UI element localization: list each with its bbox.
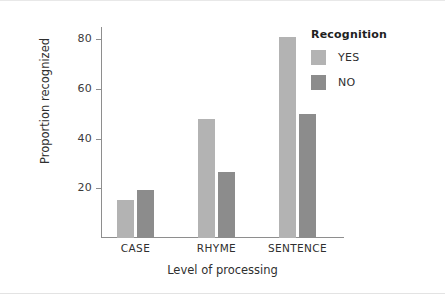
legend-swatch-icon — [311, 75, 326, 90]
y-tick-label-wrap: 20 — [48, 181, 92, 195]
legend-label: NO — [338, 76, 356, 89]
bar-case-yes — [117, 200, 134, 238]
legend-item-no[interactable]: NO — [311, 75, 431, 90]
y-tick-label: 80 — [48, 32, 92, 45]
bar-sentence-yes — [279, 37, 296, 238]
legend-title: Recognition — [311, 28, 431, 41]
bar-rhyme-no — [218, 172, 235, 238]
y-tick-label-wrap: 80 — [48, 32, 92, 46]
legend: Recognition YESNO — [311, 28, 431, 100]
legend-label: YES — [338, 51, 360, 64]
x-axis-title: Level of processing — [101, 263, 344, 277]
x-tick-label-sentence: SENTENCE — [253, 242, 343, 254]
bar-sentence-no — [299, 114, 316, 238]
x-tick-label-rhyme: RHYME — [172, 242, 262, 254]
plot-area — [101, 27, 344, 238]
y-tick-label-wrap: 40 — [48, 132, 92, 146]
bar-case-no — [137, 190, 154, 238]
bar-chart-figure: 20406080 Proportion recognized CASERHYME… — [0, 0, 445, 294]
y-tick-label-wrap: 60 — [48, 82, 92, 96]
bar-rhyme-yes — [198, 119, 215, 238]
y-axis-title: Proportion recognized — [38, 16, 52, 186]
legend-swatch-icon — [311, 50, 326, 65]
y-tick-label: 20 — [48, 181, 92, 194]
legend-items: YESNO — [311, 50, 431, 90]
y-tick-label: 40 — [48, 132, 92, 145]
y-tick-label: 60 — [48, 82, 92, 95]
x-tick-label-case: CASE — [91, 242, 181, 254]
legend-item-yes[interactable]: YES — [311, 50, 431, 65]
